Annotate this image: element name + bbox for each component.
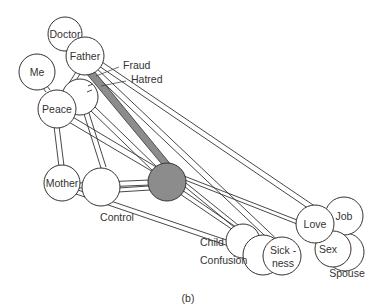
doctor-label: Doctor (50, 28, 81, 40)
figure-caption: (b) (182, 292, 195, 304)
peace-label: Peace (42, 103, 72, 115)
sickness-label-1: Sick - (270, 244, 297, 256)
control-node (82, 168, 120, 206)
father-label: Father (70, 50, 101, 62)
job-label: Job (336, 210, 353, 222)
sickness-node (263, 237, 301, 275)
control-label: Control (100, 211, 134, 223)
spouse-label: Spouse (329, 267, 365, 279)
fraud-label: Fraud (123, 59, 151, 71)
center-node (148, 163, 186, 201)
me-label: Me (30, 66, 45, 78)
love-label: Love (304, 218, 327, 230)
mother-label: Mother (46, 177, 79, 189)
hatred-label: Hatred (131, 73, 163, 85)
fraud-hatred-band (86, 71, 172, 168)
network-diagram: Doctor Father Me Peace Mother Control Fr… (0, 0, 383, 308)
sickness-label-2: ness (272, 257, 294, 269)
child-label: Child (200, 236, 224, 248)
confusion-label: Confusion (200, 254, 247, 266)
sex-label: Sex (319, 243, 338, 255)
